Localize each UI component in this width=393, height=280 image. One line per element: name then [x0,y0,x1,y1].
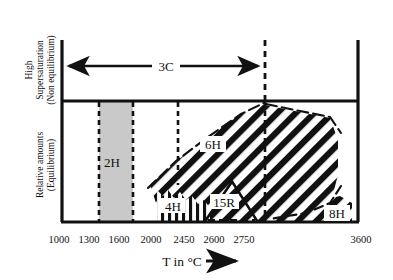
x-tick-3600: 3600 [351,234,372,245]
x-tick-2750: 2750 [234,234,255,245]
polytype-diagram: 3C 2H 4H 6H 15R 8H 1000 1300 1600 2000 2… [0,0,393,280]
y-axis-lower-labels: Relative amounts (Equilibrium) [35,132,57,199]
x-axis-title: T in °C [162,254,202,269]
figure-root: 3C 2H 4H 6H 15R 8H 1000 1300 1600 2000 2… [0,0,393,280]
y-label-relative-amounts: Relative amounts [35,132,45,199]
label-6h: 6H [205,137,221,152]
y-label-equilibrium: (Equilibrium) [46,139,57,191]
x-tick-1300: 1300 [79,234,100,245]
label-8h: 8H [329,206,345,221]
label-4h: 4H [165,199,181,214]
x-tick-2600: 2600 [204,234,225,245]
y-label-high: High [24,60,34,79]
x-tick-2000: 2000 [141,234,162,245]
label-3c: 3C [158,59,173,74]
label-2h: 2H [104,155,120,170]
x-tick-1000: 1000 [49,234,70,245]
x-tick-2450: 2450 [174,234,195,245]
x-tick-1600: 1600 [109,234,130,245]
y-label-non-equilibrium: (Non equilibrium) [46,35,57,104]
label-15r: 15R [213,195,235,210]
y-label-supersaturation: Supersaturation [35,40,45,100]
